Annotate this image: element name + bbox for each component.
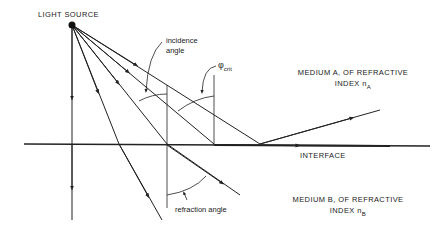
medium-b-line2: INDEX n: [330, 206, 362, 215]
light-source-label: LIGHT SOURCE: [38, 10, 99, 19]
medium-a-line1: MEDIUM A, OF REFRACTIVE: [278, 67, 428, 78]
medium-a-label: MEDIUM A, OF REFRACTIVE INDEX nA: [278, 67, 428, 93]
critical-angle-label: φcrit: [218, 60, 232, 72]
medium-a-line2: INDEX n: [335, 79, 367, 88]
medium-b-subscript: B: [362, 211, 366, 217]
refraction-diagram: LIGHT SOURCE incidence angle φcrit MEDIU…: [0, 0, 440, 233]
refraction-angle-label: refraction angle: [175, 205, 227, 214]
incidence-angle-label-line1: incidence: [166, 36, 198, 46]
medium-b-label: MEDIUM B, OF REFRACTIVE INDEX nB: [273, 194, 423, 220]
medium-b-line1: MEDIUM B, OF REFRACTIVE: [273, 194, 423, 205]
ray-steep: [72, 25, 162, 220]
incidence-angle-label: incidence angle: [166, 36, 198, 56]
ray-refracted: [72, 25, 240, 195]
crit-subscript: crit: [224, 66, 232, 72]
interface-label: INTERFACE: [300, 151, 346, 160]
medium-a-subscript: A: [367, 84, 371, 90]
light-source-dot: [69, 22, 76, 29]
incidence-angle-label-line2: angle: [166, 46, 198, 56]
